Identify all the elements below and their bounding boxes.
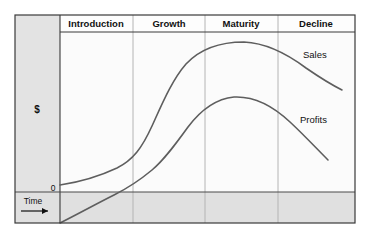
product-life-cycle-chart: Introduction Growth Maturity Decline Sal… [0, 0, 370, 238]
stage-label-introduction: Introduction [68, 18, 124, 29]
below-zero-band-background [15, 192, 355, 223]
stage-label-growth: Growth [152, 18, 185, 29]
origin-zero-label: 0 [51, 183, 56, 193]
y-axis-label-dollar: $ [34, 104, 40, 115]
x-axis-label-time: Time [24, 196, 43, 206]
stage-label-decline: Decline [299, 18, 333, 29]
stage-label-maturity: Maturity [223, 18, 261, 29]
series-label-sales: Sales [303, 49, 327, 60]
chart-canvas: Introduction Growth Maturity Decline Sal… [0, 0, 370, 238]
series-label-profits: Profits [300, 114, 327, 125]
